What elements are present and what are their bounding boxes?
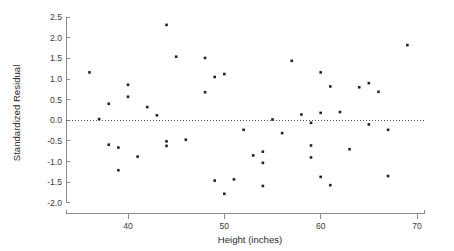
data-point-marker (319, 71, 322, 74)
data-point-marker (358, 86, 361, 89)
data-points-layer (88, 24, 409, 196)
data-point-marker (319, 176, 322, 179)
y-tick-label: -1.0 (47, 157, 62, 167)
data-point-marker (252, 154, 255, 157)
data-point-marker (271, 118, 274, 121)
x-axis-spine (66, 210, 424, 214)
x-axis-title: Height (inches) (218, 234, 283, 245)
data-point-marker (329, 85, 332, 88)
data-point-marker (290, 60, 293, 63)
data-point-marker (281, 132, 284, 135)
data-point-marker (319, 112, 322, 115)
data-point-marker (242, 129, 245, 132)
data-point-marker (387, 129, 390, 132)
data-point-marker (127, 95, 130, 98)
data-point-marker (368, 123, 371, 126)
data-point-marker (377, 91, 380, 94)
data-point-marker (136, 155, 139, 158)
data-point-marker (213, 76, 216, 79)
data-point-marker (98, 118, 101, 121)
data-point-marker (310, 121, 313, 124)
data-point-marker (262, 150, 265, 153)
data-point-marker (88, 71, 91, 74)
data-point-marker (156, 114, 159, 117)
data-point-marker (117, 146, 120, 149)
y-tick-label: 0.5 (50, 95, 62, 105)
data-point-marker (368, 82, 371, 85)
data-point-marker (387, 175, 390, 178)
data-point-marker (348, 148, 351, 151)
data-point-marker (107, 143, 110, 146)
data-point-marker (310, 156, 313, 159)
data-point-marker (213, 179, 216, 182)
data-point-marker (204, 57, 207, 60)
data-point-marker (300, 113, 303, 116)
data-point-marker (127, 83, 130, 86)
y-axis: 2.52.01.51.00.50.0-0.5-1.0-1.5-2.0 (47, 12, 70, 208)
residual-plot-figure: 2.52.01.51.00.50.0-0.5-1.0-1.5-2.0 40506… (0, 0, 454, 251)
data-point-marker (204, 91, 207, 94)
x-axis: 40506070 (66, 210, 424, 231)
x-tick-label: 40 (123, 221, 133, 231)
data-point-marker (146, 106, 149, 109)
x-tick-label: 50 (220, 221, 230, 231)
data-point-marker (223, 73, 226, 76)
data-point-marker (262, 185, 265, 188)
data-point-marker (339, 111, 342, 114)
y-tick-label: -1.5 (47, 177, 62, 187)
data-point-marker (406, 44, 409, 47)
y-tick-label: -0.5 (47, 136, 62, 146)
data-point-marker (107, 102, 110, 105)
y-tick-label: 0.0 (50, 115, 62, 125)
y-tick-label: 2.0 (50, 33, 62, 43)
y-axis-title: Standardized Residual (11, 65, 22, 162)
y-tick-label: 1.5 (50, 53, 62, 63)
y-tick-label: 1.0 (50, 74, 62, 84)
data-point-marker (262, 162, 265, 165)
y-axis-spine (66, 17, 70, 203)
data-point-marker (185, 138, 188, 141)
scatter-plot-canvas: 2.52.01.51.00.50.0-0.5-1.0-1.5-2.0 40506… (0, 0, 454, 251)
data-point-marker (223, 193, 226, 196)
data-point-marker (233, 178, 236, 181)
data-point-marker (310, 144, 313, 147)
data-point-marker (117, 169, 120, 172)
data-point-marker (165, 24, 168, 27)
data-point-marker (165, 145, 168, 148)
x-tick-label: 70 (412, 221, 422, 231)
data-point-marker (175, 55, 178, 58)
y-tick-label: -2.0 (47, 198, 62, 208)
data-point-marker (329, 184, 332, 187)
y-tick-label: 2.5 (50, 12, 62, 22)
x-tick-label: 60 (316, 221, 326, 231)
data-point-marker (165, 140, 168, 143)
